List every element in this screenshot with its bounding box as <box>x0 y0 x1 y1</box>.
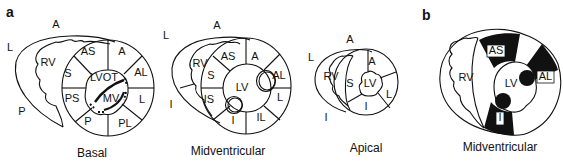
label-segment-il: IL <box>256 111 265 123</box>
label-segment-s: S <box>346 77 353 89</box>
orientation-inferior: I <box>169 98 172 110</box>
orientation-anterior: A <box>346 33 354 45</box>
label-segment-al: AL <box>272 69 285 81</box>
orientation-posterior: P <box>18 105 25 117</box>
label-segment-l: L <box>139 93 145 105</box>
label-segment-i: I <box>231 114 234 126</box>
b-papillary-muscle-anterolateral <box>519 70 535 86</box>
caption-apical: Apical <box>350 141 383 155</box>
caption-midventricular-b: Midventricular <box>463 140 538 154</box>
label-segment-l: L <box>386 88 392 100</box>
b-label-segment-al: AL <box>539 70 552 82</box>
apical-diagram: A L I RV S A L I LV Apical <box>308 33 398 155</box>
orientation-left: L <box>163 29 169 41</box>
mid-rv-septal-line <box>180 84 194 88</box>
b-label-segment-as: AS <box>489 44 504 56</box>
label-segment-pl: PL <box>118 117 131 129</box>
caption-midventricular: Midventricular <box>191 144 266 158</box>
label-segment-a: A <box>368 55 376 67</box>
label-segment-a: A <box>251 50 259 62</box>
panel-label-a: a <box>6 4 14 20</box>
orientation-left: L <box>308 51 314 63</box>
apical-divider <box>380 72 396 78</box>
label-lvot: LVOT <box>90 71 118 83</box>
label-rv: RV <box>40 56 56 68</box>
mid-divider <box>264 106 280 120</box>
apical-divider <box>348 94 362 102</box>
label-lv: LV <box>364 77 377 89</box>
label-mv: MV <box>103 92 120 104</box>
label-segment-as: AS <box>81 45 96 57</box>
label-segment-l: L <box>277 91 283 103</box>
orientation-anterior: A <box>52 18 60 30</box>
b-septal-line <box>472 38 484 128</box>
label-rv: RV <box>192 57 208 69</box>
orientation-left: L <box>7 41 13 53</box>
basal-diagram: A L P RV AS A AL L PL P PS S LVOT MV Bas… <box>7 18 154 160</box>
label-segment-a: A <box>118 45 126 57</box>
label-segment-as: AS <box>221 50 236 62</box>
orientation-anterior: A <box>213 19 221 31</box>
b-label-lv: LV <box>505 77 518 89</box>
b-label-segment-i: I <box>498 111 501 123</box>
midventricular-diagram: A L I RV AS A AL L IL I IS S LV Midventr… <box>163 19 291 158</box>
label-segment-ps: PS <box>65 92 80 104</box>
panel-label-b: b <box>422 7 431 23</box>
b-label-rv: RV <box>458 71 474 83</box>
label-lv: LV <box>236 81 249 93</box>
mid-divider <box>213 106 230 120</box>
b-papillary-muscle-posteromedial <box>495 93 511 109</box>
mid-divider <box>264 54 280 70</box>
label-segment-s: S <box>64 67 71 79</box>
label-segment-s: S <box>207 69 214 81</box>
label-segment-p: P <box>84 115 91 127</box>
diagram-canvas: a b A L P RV AS A AL L PL P <box>0 0 563 167</box>
label-segment-al: AL <box>134 66 147 78</box>
caption-basal: Basal <box>77 146 107 160</box>
orientation-inferior: I <box>324 111 327 123</box>
label-segment-i: I <box>364 100 367 112</box>
label-segment-is: IS <box>204 93 214 105</box>
midventricular-b-diagram: AS AL I RV LV Midventricular <box>440 29 561 154</box>
label-rv: RV <box>323 70 339 82</box>
basal-divider <box>74 56 91 74</box>
